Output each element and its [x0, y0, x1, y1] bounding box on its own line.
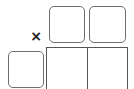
tile-top-2[interactable] — [89, 6, 126, 43]
tile-top-1[interactable] — [49, 6, 85, 43]
grid-cell-2[interactable] — [87, 48, 128, 89]
close-icon[interactable]: × — [30, 30, 42, 42]
drop-grid — [46, 47, 128, 89]
grid-cell-1[interactable] — [47, 48, 87, 89]
tile-left[interactable] — [8, 51, 44, 88]
